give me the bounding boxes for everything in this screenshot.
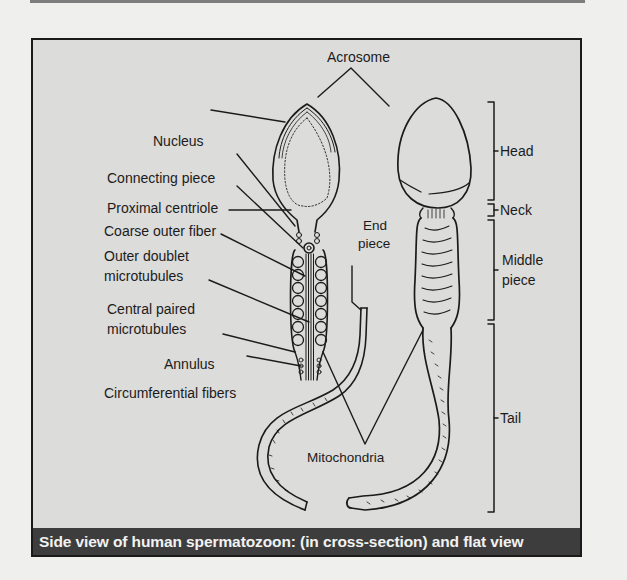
label-acrosome: Acrosome: [327, 49, 390, 65]
spermatozoon-figure: Acrosome Nucleus Connecting piece Proxim…: [31, 38, 582, 557]
label-outer-doublet-line2: microtubules: [104, 268, 183, 284]
figure-caption: Side view of human spermatozoon: (in cro…: [33, 528, 580, 555]
flat-view-sperm: [347, 98, 471, 510]
label-central-paired-line2: microtubules: [107, 321, 186, 337]
label-connecting-piece: Connecting piece: [107, 170, 215, 186]
label-end-piece-line2: piece: [358, 236, 390, 252]
label-outer-doublet-line1: Outer doublet: [104, 248, 189, 264]
page-top-rule: [30, 0, 585, 3]
label-central-paired-line1: Central paired: [107, 301, 195, 317]
label-end-piece-line1: End: [363, 218, 387, 234]
label-mitochondria: Mitochondria: [307, 450, 384, 466]
label-circumferential-fibers: Circumferential fibers: [104, 385, 236, 401]
leader-lines: [209, 68, 423, 444]
bracket-label-head: Head: [500, 143, 533, 159]
bracket-label-neck: Neck: [500, 202, 532, 218]
bracket-label-middle-line2: piece: [502, 272, 535, 288]
label-coarse-outer-fiber: Coarse outer fiber: [104, 223, 216, 239]
label-annulus: Annulus: [164, 356, 215, 372]
label-proximal-centriole: Proximal centriole: [107, 200, 218, 216]
bracket-label-tail: Tail: [500, 410, 521, 426]
bracket-label-middle-line1: Middle: [502, 252, 543, 268]
curled-tail-left: [257, 308, 367, 510]
cross-section-sperm: [273, 104, 340, 380]
region-brackets: [488, 102, 498, 512]
label-nucleus: Nucleus: [153, 133, 204, 149]
